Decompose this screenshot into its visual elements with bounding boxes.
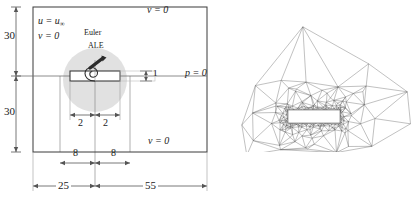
- mesh-plate-body: [288, 110, 340, 123]
- mesh-triangles: [242, 27, 411, 152]
- bc-outlet-label: p = 0: [185, 68, 207, 78]
- dimension-thickness-label: 1: [153, 69, 158, 78]
- bc-top-label: v = 0: [147, 5, 168, 15]
- region-label-euler: Euler: [84, 29, 101, 37]
- dimension-upstream-label: 25: [56, 180, 71, 191]
- bc-inlet-u-subscript: ∞: [60, 20, 65, 27]
- mesh-panel: [238, 0, 420, 152]
- bc-bottom-label: v = 0: [148, 136, 169, 146]
- bc-inlet-u-text: u = u: [38, 15, 60, 26]
- dimension-downstream-label: 55: [143, 180, 158, 191]
- bc-inlet-v-label: v = 0: [38, 31, 59, 41]
- dimension-inner-right-label: 8: [111, 148, 116, 158]
- dimension-above-label: 30: [4, 30, 15, 41]
- dimension-plate-left-label: 2: [78, 118, 83, 128]
- domain-schematic-drawing: [0, 0, 230, 204]
- bc-inlet-u-label: u = u∞: [38, 16, 65, 27]
- region-label-ale: ALE: [88, 42, 104, 50]
- dimension-plate-right-label: 2: [103, 118, 108, 128]
- dimension-inner-left-label: 8: [73, 148, 78, 158]
- dimension-below-label: 30: [4, 106, 15, 117]
- figure-root: v = 0 v = 0 u = u∞ v = 0 p = 0 Euler ALE…: [0, 0, 420, 204]
